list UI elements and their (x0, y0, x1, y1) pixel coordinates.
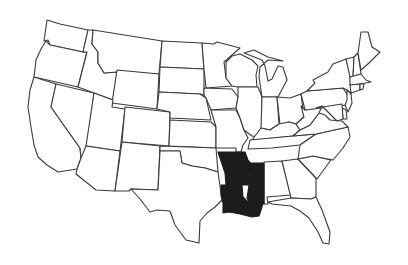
state-florida: Florida (268, 197, 330, 244)
state-rhode-island: Rhode Island (360, 84, 364, 90)
us-states-svg: WashingtonOregonCaliforniaNevadaIdahoMon… (0, 0, 408, 265)
state-connecticut: Connecticut (350, 84, 360, 93)
state-arizona: Arizona (76, 146, 120, 191)
us-map: WashingtonOregonCaliforniaNevadaIdahoMon… (0, 0, 408, 265)
state-south-dakota: South Dakota (159, 67, 204, 95)
state-mississippi: Mississippi (247, 163, 264, 204)
state-north-dakota: North Dakota (160, 41, 204, 69)
state-maine: Maine (358, 32, 380, 70)
state-wisconsin: Wisconsin (226, 54, 258, 87)
state-indiana: Indiana (261, 97, 279, 130)
state-iowa: Iowa (204, 88, 238, 110)
state-montana: Montana (92, 30, 162, 74)
state-wyoming: Wyoming (112, 70, 159, 109)
state-new-mexico: New Mexico (115, 142, 160, 191)
state-arkansas: Arkansas (218, 152, 252, 185)
state-kansas: Kansas (169, 120, 216, 148)
state-new-york: New York (307, 59, 351, 94)
state-colorado: Colorado (122, 107, 170, 146)
state-massachusetts: Massachusetts (350, 74, 371, 85)
